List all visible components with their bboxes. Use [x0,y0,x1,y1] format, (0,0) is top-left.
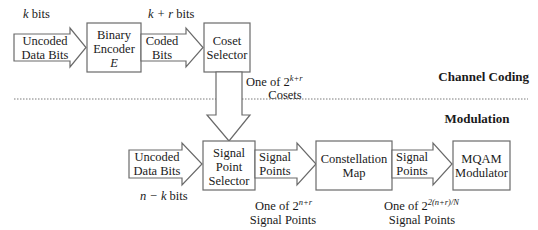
svg-text:Points: Points [396,164,427,178]
tcm-block-diagram: Channel Coding Modulation k bits Uncoded… [0,0,538,230]
label-one-of-2-2n-plus-r-over-n: One of 22(n+r)/N [384,197,460,213]
svg-text:Binary: Binary [97,28,132,42]
svg-text:Constellation: Constellation [321,152,388,166]
label-k: k bits [23,7,50,21]
svg-text:Points: Points [259,164,290,178]
svg-text:Signal: Signal [259,150,291,164]
svg-text:Map: Map [343,166,366,180]
svg-text:Data Bits: Data Bits [134,164,181,178]
svg-text:Signal: Signal [396,150,428,164]
label-k-plus-r: k + r bits [148,7,194,21]
block-coset-selector: Coset Selector [204,23,250,72]
section-label-modulation: Modulation [444,111,510,126]
arrow-uncoded-data-bits-bottom: Uncoded Data Bits n − k bits [129,143,202,203]
svg-text:Uncoded: Uncoded [22,34,68,48]
svg-text:Modulator: Modulator [455,166,509,180]
svg-text:Signal Points: Signal Points [250,213,316,227]
arrow-coded-bits: k + r bits Coded Bits [141,7,203,67]
block-constellation-map: Constellation Map [316,141,392,190]
block-signal-point-selector: Signal Point Selector [203,141,255,190]
arrow-signal-points-1: Signal Points One of 2n+r Signal Points [250,143,316,227]
svg-text:MQAM: MQAM [461,152,501,166]
label-one-of-cosets: One of 2k+r [246,73,303,89]
arrow-signal-points-2: Signal Points One of 22(n+r)/N Signal Po… [384,143,460,227]
svg-text:Signal Points: Signal Points [389,213,455,227]
svg-text:Uncoded: Uncoded [134,150,180,164]
svg-text:Coded: Coded [146,34,179,48]
svg-text:Encoder: Encoder [93,42,135,56]
arrow-uncoded-data-bits-top: k bits Uncoded Data Bits [14,7,86,67]
svg-text:Coset: Coset [213,34,242,48]
label-one-of-2-n-plus-r: One of 2n+r [255,197,313,213]
svg-text:Selector: Selector [209,174,251,188]
block-binary-encoder: Binary Encoder E [87,23,141,72]
svg-text:Signal: Signal [213,146,245,160]
arrow-cosets-down: One of 2k+r Cosets [207,72,303,141]
block-mqam-modulator: MQAM Modulator [453,141,510,190]
svg-text:Selector: Selector [207,48,249,62]
svg-text:Bits: Bits [152,48,172,62]
svg-text:Point: Point [216,160,243,174]
svg-text:Data Bits: Data Bits [22,48,69,62]
label-n-minus-k: n − k bits [140,189,188,203]
section-label-channel-coding: Channel Coding [438,69,529,84]
svg-text:Cosets: Cosets [268,88,301,102]
svg-text:E: E [109,56,118,70]
